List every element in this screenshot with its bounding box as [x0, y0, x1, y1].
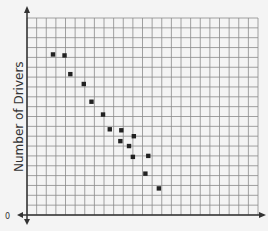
- data-point: [68, 72, 72, 76]
- data-point: [127, 144, 131, 148]
- data-point: [51, 52, 55, 56]
- data-point: [89, 100, 93, 104]
- data-point: [132, 134, 136, 138]
- origin-label: 0: [5, 212, 10, 221]
- grid-lines: [27, 18, 258, 215]
- data-point: [101, 112, 105, 116]
- x-axis-arrow-right-icon: [259, 212, 266, 218]
- data-point: [119, 128, 123, 132]
- y-axis-arrow-down-icon: [24, 219, 30, 225]
- data-point: [62, 53, 66, 57]
- scatter-plot: [0, 0, 268, 231]
- data-points: [51, 52, 161, 190]
- y-axis-label: Number of Drivers: [12, 62, 26, 172]
- data-point: [143, 171, 147, 175]
- y-axis-arrow-up-icon: [24, 6, 30, 13]
- data-point: [118, 139, 122, 143]
- x-axis-arrow-left-icon: [17, 212, 23, 218]
- data-point: [82, 82, 86, 86]
- data-point: [131, 155, 135, 159]
- axes: [17, 6, 266, 225]
- data-point: [108, 127, 112, 131]
- data-point: [146, 154, 150, 158]
- data-point: [157, 186, 161, 190]
